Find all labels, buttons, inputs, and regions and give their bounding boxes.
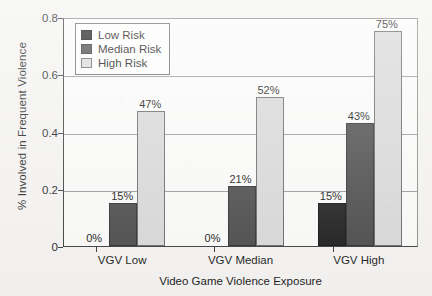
legend-label: Low Risk xyxy=(98,29,145,41)
bar-value-label: 21% xyxy=(229,173,251,185)
legend-label: High Risk xyxy=(98,57,147,69)
legend-item-median-risk[interactable]: Median Risk xyxy=(81,42,161,56)
legend-item-high-risk[interactable]: High Risk xyxy=(81,56,161,70)
bar-vgv-high-low-risk[interactable] xyxy=(318,203,346,246)
y-tick-label: 0.6 xyxy=(24,69,58,81)
y-tick-label: 0.2 xyxy=(24,184,58,196)
bar-value-label: 0% xyxy=(86,232,102,244)
y-tick-mark xyxy=(58,247,63,248)
bar-value-label: 47% xyxy=(139,98,161,110)
legend-label: Median Risk xyxy=(98,43,161,55)
bar-value-label: 15% xyxy=(111,190,133,202)
bar-value-label: 43% xyxy=(348,110,370,122)
bar-chart-figure: % Involved in Frequent Violence 00.20.40… xyxy=(0,0,432,296)
x-tick-label: VGV Median xyxy=(208,254,273,266)
bar-vgv-median-high-risk[interactable] xyxy=(256,97,284,246)
legend-swatch-icon xyxy=(81,44,92,54)
bar-vgv-high-high-risk[interactable] xyxy=(374,31,402,246)
legend-item-low-risk[interactable]: Low Risk xyxy=(81,28,161,42)
x-tick-mark xyxy=(96,247,97,252)
x-tick-mark xyxy=(333,247,334,252)
bar-value-label: 15% xyxy=(320,190,342,202)
y-tick-label: 0.4 xyxy=(24,127,58,139)
bar-value-label: 52% xyxy=(257,84,279,96)
legend: Low RiskMedian RiskHigh Risk xyxy=(75,23,170,75)
legend-swatch-icon xyxy=(81,30,92,40)
bar-value-label: 75% xyxy=(376,18,398,30)
x-tick-label: VGV Low xyxy=(98,254,147,266)
y-tick-label: 0.8 xyxy=(24,12,58,24)
bar-vgv-low-high-risk[interactable] xyxy=(137,111,165,246)
y-tick-label: 0 xyxy=(24,241,58,253)
bar-vgv-median-median-risk[interactable] xyxy=(228,186,256,246)
legend-swatch-icon xyxy=(81,58,92,68)
gridline xyxy=(64,76,417,77)
x-tick-mark xyxy=(214,247,215,252)
x-axis-label: Video Game Violence Exposure xyxy=(63,275,418,287)
bar-vgv-low-median-risk[interactable] xyxy=(109,203,137,246)
x-tick-label: VGV High xyxy=(333,254,384,266)
y-axis-tick-labels: 00.20.40.60.8 xyxy=(22,0,58,296)
bar-vgv-high-median-risk[interactable] xyxy=(346,123,374,246)
bar-value-label: 0% xyxy=(205,232,221,244)
